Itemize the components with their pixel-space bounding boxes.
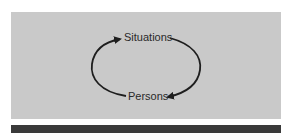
node-persons: Persons — [128, 90, 168, 102]
divider-bar — [11, 125, 281, 133]
cycle-arrows — [0, 0, 292, 136]
arrow-situations-to-persons — [168, 38, 200, 97]
node-situations: Situations — [124, 31, 172, 43]
arrow-persons-to-situations — [92, 39, 126, 96]
